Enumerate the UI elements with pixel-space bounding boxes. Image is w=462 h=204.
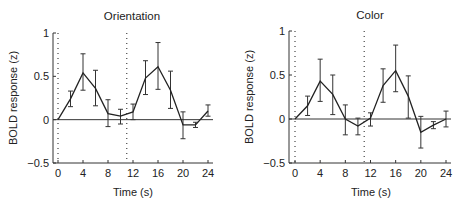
color-chart: Color−0.500.5104812162024Time (s)BOLD re… [243,9,452,198]
x-tick-label: 24 [440,167,452,179]
x-axis-label: Time (s) [113,186,153,198]
x-tick-label: 12 [127,167,139,179]
x-tick-label: 8 [105,167,111,179]
x-tick-label: 12 [364,167,376,179]
x-tick-label: 4 [80,167,86,179]
x-tick-label: 4 [317,167,323,179]
x-tick-label: 0 [292,167,298,179]
y-tick-label: 0 [279,113,285,125]
x-tick-label: 8 [342,167,348,179]
x-tick-label: 16 [152,167,164,179]
y-tick-label: 1 [43,27,49,39]
x-tick-label: 20 [177,167,189,179]
y-axis-label: BOLD response (z) [7,51,19,145]
y-tick-label: 1 [279,25,285,37]
y-tick-label: 0.5 [34,70,49,82]
x-tick-label: 24 [202,167,214,179]
x-tick-label: 20 [415,167,427,179]
x-tick-label: 16 [390,167,402,179]
y-tick-label: −0.5 [27,157,49,169]
x-tick-label: 0 [55,167,61,179]
chart-title: Orientation [104,10,160,22]
y-tick-label: 0 [43,114,49,126]
y-tick-label: −0.5 [263,157,285,169]
chart-title: Color [356,9,384,21]
y-tick-label: 0.5 [270,69,285,81]
figure: Orientation−0.500.5104812162024Time (s)B… [0,0,462,204]
x-axis-label: Time (s) [351,186,391,198]
y-axis-label: BOLD response (z) [243,50,255,144]
orientation-chart: Orientation−0.500.5104812162024Time (s)B… [7,10,214,198]
